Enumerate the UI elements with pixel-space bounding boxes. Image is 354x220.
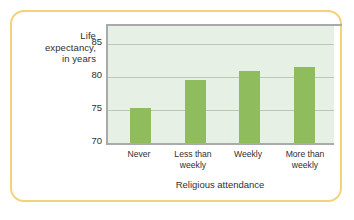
x-tick-never: Never (108, 149, 170, 160)
x-tick-less-than-weekly: Less than weekly (162, 149, 224, 170)
bar-less-than-weekly (185, 80, 206, 143)
figure-frame: Life expectancy, in years 70 75 80 85 Ne… (10, 10, 342, 202)
plot-area (106, 24, 334, 145)
x-axis-ticks: Never Less than weekly Weekly More than … (106, 149, 338, 175)
bar-weekly (239, 71, 260, 143)
x-tick-never-line-1: Never (108, 149, 170, 160)
x-tick-weekly-line-1: Weekly (217, 149, 279, 160)
x-tick-weekly: Weekly (217, 149, 279, 160)
plot-top-rule (106, 24, 342, 26)
x-tick-less-than-weekly-line-1: Less than (162, 149, 224, 160)
y-tick-80: 80 (80, 69, 102, 80)
x-axis-title: Religious attendance (106, 179, 334, 190)
y-tick-75: 75 (80, 102, 102, 113)
y-tick-85: 85 (80, 36, 102, 47)
bar-never (130, 108, 151, 143)
x-tick-more-than-weekly-line-2: weekly (272, 160, 338, 171)
x-tick-more-than-weekly-line-1: More than (272, 149, 338, 160)
gridline-85 (108, 44, 334, 45)
y-axis-ticks: 70 75 80 85 (74, 24, 102, 145)
bar-more-than-weekly (294, 67, 315, 143)
x-tick-more-than-weekly: More than weekly (272, 149, 338, 170)
x-tick-less-than-weekly-line-2: weekly (162, 160, 224, 171)
y-tick-70: 70 (80, 135, 102, 146)
